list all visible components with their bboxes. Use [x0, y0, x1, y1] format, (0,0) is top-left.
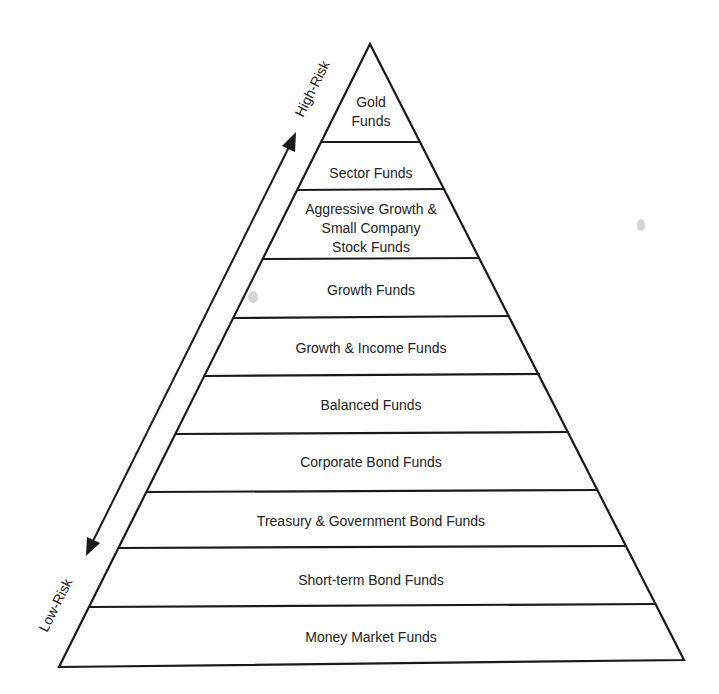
layer-growth-funds: Growth Funds	[327, 282, 415, 298]
arrow-shaft	[92, 145, 290, 543]
layer-money-market-funds: Money Market Funds	[305, 629, 437, 645]
arrow-up-head-icon	[282, 132, 296, 152]
layer-label: Growth & Income Funds	[296, 340, 447, 356]
layer-balanced-funds: Balanced Funds	[320, 397, 421, 413]
layer-treasury-bond-funds: Treasury & Government Bond Funds	[257, 513, 485, 529]
layer-label: Treasury & Government Bond Funds	[257, 513, 485, 529]
layer-label: Small Company	[322, 220, 421, 236]
scan-smudge	[637, 219, 645, 231]
layer-divider	[119, 546, 627, 548]
layer-label: Growth Funds	[327, 282, 415, 298]
layer-label: Stock Funds	[332, 239, 410, 255]
layer-label: Sector Funds	[329, 165, 412, 181]
layer-divider	[176, 432, 569, 434]
scan-smudge	[248, 291, 258, 303]
layer-divider	[263, 258, 480, 259]
layer-divider	[89, 604, 655, 607]
layer-divider	[234, 316, 510, 318]
layer-divider	[147, 490, 598, 492]
layer-aggressive-growth-funds: Aggressive Growth & Small Company Stock …	[305, 201, 437, 255]
layer-label: Funds	[352, 113, 391, 129]
layer-short-term-bond-funds: Short-term Bond Funds	[298, 572, 444, 588]
layer-label: Money Market Funds	[305, 629, 437, 645]
layer-divider	[205, 374, 540, 376]
low-risk-label: Low-Risk	[35, 575, 75, 635]
layer-sector-funds: Sector Funds	[329, 165, 412, 181]
layer-gold-funds: Gold Funds	[352, 94, 391, 129]
arrow-down-head-icon	[86, 537, 100, 556]
layer-label: Aggressive Growth &	[305, 201, 437, 217]
layer-label: Short-term Bond Funds	[298, 572, 444, 588]
high-risk-label: High-Risk	[291, 57, 333, 119]
layer-corporate-bond-funds: Corporate Bond Funds	[300, 454, 442, 470]
layer-divider	[297, 189, 445, 190]
layer-label: Corporate Bond Funds	[300, 454, 442, 470]
risk-pyramid-diagram: High-Risk Low-Risk Gold Funds Sector Fun…	[0, 0, 719, 694]
layer-growth-income-funds: Growth & Income Funds	[296, 340, 447, 356]
layer-label: Balanced Funds	[320, 397, 421, 413]
layer-label: Gold	[356, 94, 386, 110]
